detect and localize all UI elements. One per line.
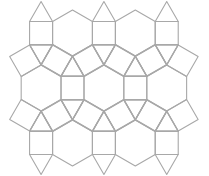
- tiling-diagram: [0, 0, 209, 176]
- square-tile: [104, 45, 135, 76]
- triangle-tile: [155, 112, 178, 132]
- triangle-tile: [30, 45, 53, 65]
- triangle-tile: [124, 56, 147, 76]
- square-tile: [10, 100, 41, 131]
- square-tile: [104, 45, 135, 76]
- square-tile: [135, 100, 166, 131]
- square-tile: [73, 45, 104, 76]
- square-tile: [61, 77, 84, 100]
- triangle-tile: [61, 100, 84, 120]
- square-tile: [135, 45, 166, 76]
- square-tile: [92, 22, 115, 45]
- square-tile: [135, 45, 166, 76]
- triangle-tile: [30, 45, 53, 65]
- square-tile: [135, 100, 166, 131]
- triangle-tile: [92, 111, 115, 131]
- triangle-tile: [155, 2, 178, 22]
- triangle-tile: [92, 45, 115, 65]
- square-tile: [30, 22, 53, 45]
- triangle-tile: [61, 56, 84, 76]
- square-tile: [167, 100, 198, 131]
- square-tile: [41, 100, 72, 131]
- triangle-tile: [155, 45, 178, 65]
- square-tile: [104, 100, 135, 131]
- triangle-tile: [30, 155, 53, 175]
- triangle-tile: [61, 57, 84, 77]
- square-tile: [41, 45, 72, 76]
- triangle-tile: [124, 100, 147, 120]
- triangle-tile: [124, 100, 147, 120]
- square-tile: [10, 45, 41, 76]
- tiling-svg: [0, 0, 209, 176]
- triangle-tile: [155, 111, 178, 131]
- square-tile: [104, 100, 135, 131]
- triangle-tile: [92, 112, 115, 132]
- triangle-tile: [61, 100, 84, 120]
- square-tile: [92, 132, 115, 155]
- square-tile: [72, 45, 103, 76]
- square-tile: [30, 132, 53, 155]
- square-tile: [41, 100, 72, 131]
- square-tile: [155, 22, 178, 45]
- square-tile: [167, 45, 198, 76]
- square-tile: [73, 100, 104, 131]
- triangle-tile: [30, 111, 53, 131]
- triangle-tile: [92, 45, 115, 65]
- triangle-tile: [92, 2, 115, 22]
- triangle-tile: [155, 155, 178, 175]
- triangle-tile: [92, 155, 115, 175]
- triangle-tile: [155, 45, 178, 65]
- square-tile: [124, 77, 147, 100]
- square-tile: [41, 45, 72, 76]
- triangle-tile: [124, 57, 147, 77]
- triangle-tile: [30, 112, 53, 132]
- square-tile: [155, 132, 178, 155]
- triangle-tile: [30, 2, 53, 22]
- square-tile: [72, 100, 103, 131]
